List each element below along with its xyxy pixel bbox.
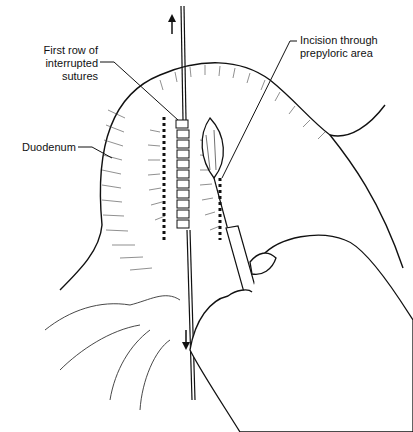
label-line: prepyloric area <box>300 47 378 60</box>
label-first-row-sutures: First row of interrupted sutures <box>20 44 98 83</box>
label-duodenum: Duodenum <box>22 141 76 154</box>
surgeon-hand <box>190 235 413 432</box>
label-line: First row of <box>20 44 98 57</box>
arrow-down-icon <box>182 330 190 350</box>
incision <box>202 118 223 178</box>
arrow-up-icon <box>168 14 176 34</box>
omentum-vessels <box>45 296 180 410</box>
label-line: interrupted sutures <box>20 57 98 83</box>
suture-row <box>176 120 189 228</box>
label-line: Incision through <box>300 34 378 47</box>
label-incision-prepyloric: Incision through prepyloric area <box>300 34 378 60</box>
